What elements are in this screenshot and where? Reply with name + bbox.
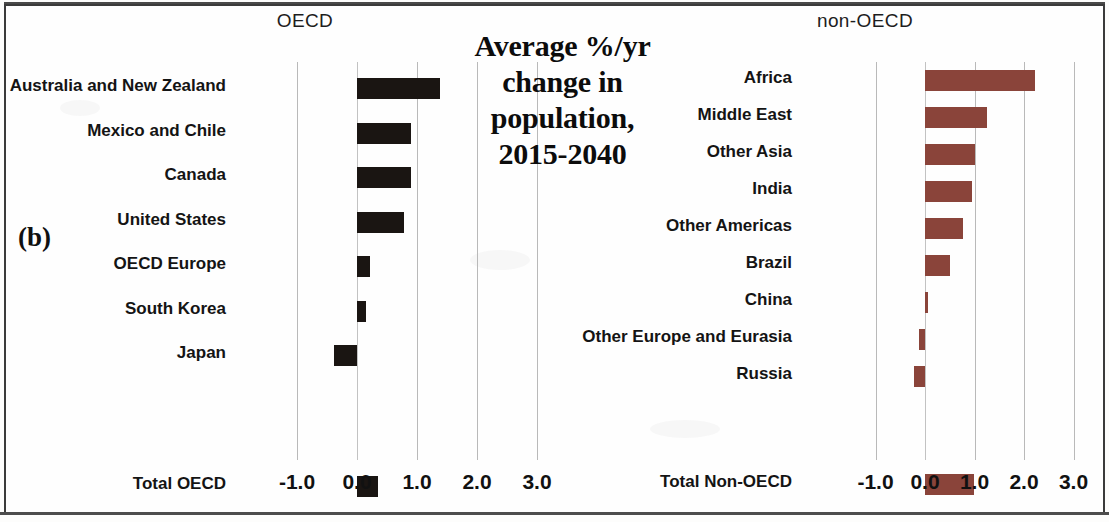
bar: [914, 366, 925, 387]
gridline-3: [1074, 62, 1075, 460]
bar: [925, 70, 1035, 91]
chart-title: Average %/yr change in population, 2015-…: [455, 28, 670, 172]
category-label: Total OECD: [133, 474, 226, 494]
category-labels-oecd: Australia and New ZealandMexico and Chil…: [4, 50, 226, 470]
category-label: Canada: [165, 165, 226, 185]
chart-title-line-3: population,: [455, 100, 670, 136]
category-label: OECD Europe: [114, 254, 226, 274]
x-tick-label: 0.0: [899, 470, 951, 494]
category-label: Total Non-OECD: [660, 472, 792, 492]
category-label: Russia: [736, 364, 792, 384]
category-label: Brazil: [746, 253, 792, 273]
figure-border-bottom: [0, 512, 1109, 515]
category-label: Middle East: [698, 105, 792, 125]
category-label: India: [752, 179, 792, 199]
category-label: Other Asia: [707, 142, 792, 162]
bar: [919, 329, 925, 350]
panel-header-oecd: OECD: [210, 10, 400, 32]
x-tick-label: 0.0: [331, 470, 383, 494]
x-tick-label: 3.0: [1048, 470, 1100, 494]
chart-title-line-2: change in: [455, 64, 670, 100]
x-tick-label: 3.0: [511, 470, 563, 494]
bar: [334, 345, 357, 366]
category-label: Other Europe and Eurasia: [582, 327, 792, 347]
category-label: Mexico and Chile: [87, 121, 226, 141]
bar: [357, 167, 411, 188]
bar: [357, 78, 440, 99]
bar: [925, 255, 950, 276]
category-label: Other Americas: [666, 216, 792, 236]
x-tick-label: -1.0: [271, 470, 323, 494]
bar: [925, 181, 972, 202]
bar: [925, 292, 928, 313]
bar: [357, 123, 411, 144]
gridline--1: [297, 62, 298, 460]
bar: [357, 256, 370, 277]
panel-header-non-oecd: non-OECD: [770, 10, 960, 32]
chart-title-line-1: Average %/yr: [455, 28, 670, 64]
category-label: South Korea: [125, 299, 226, 319]
bar: [357, 212, 404, 233]
category-label: Japan: [177, 343, 226, 363]
x-axis-non-oecd: -1.00.01.02.03.0: [800, 470, 1100, 504]
category-label: United States: [117, 210, 226, 230]
bar: [925, 107, 987, 128]
x-tick-label: -1.0: [850, 470, 902, 494]
gridline--1: [876, 62, 877, 460]
x-tick-label: 1.0: [391, 470, 443, 494]
plot-area-non-oecd: [800, 50, 1100, 470]
bar: [925, 144, 975, 165]
x-tick-label: 1.0: [949, 470, 1001, 494]
gridline-1: [417, 62, 418, 460]
x-tick-label: 2.0: [998, 470, 1050, 494]
gridline-2: [1024, 62, 1025, 460]
figure-panel-b: OECD non-OECD Average %/yr change in pop…: [0, 0, 1109, 522]
category-label: Australia and New Zealand: [10, 76, 226, 96]
x-axis-oecd: -1.00.01.02.03.0: [230, 470, 560, 504]
chart-title-line-4: 2015-2040: [455, 136, 670, 172]
x-tick-label: 2.0: [451, 470, 503, 494]
category-label: China: [745, 290, 792, 310]
bar: [925, 218, 963, 239]
category-label: Africa: [744, 68, 792, 88]
bar: [357, 301, 366, 322]
